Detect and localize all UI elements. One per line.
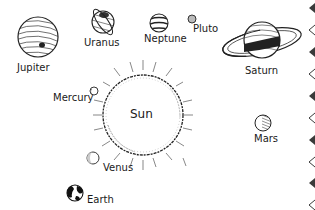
filled-diamond-icon — [309, 3, 315, 13]
uranus-label: Uranus — [84, 38, 119, 48]
outline-chevron-icon — [309, 200, 315, 210]
outline-chevron-icon — [309, 25, 315, 35]
earth-planet — [67, 185, 83, 201]
mercury-label: Mercury — [53, 93, 94, 103]
decorative-border-strip — [309, 3, 315, 210]
filled-diamond-icon — [309, 91, 315, 101]
outline-chevron-icon — [309, 113, 315, 123]
outline-chevron-icon — [309, 69, 315, 79]
pluto-planet — [188, 15, 196, 23]
mars-planet — [255, 115, 272, 131]
venus-planet — [87, 152, 99, 164]
pluto-label: Pluto — [193, 24, 218, 34]
neptune-planet — [150, 14, 168, 32]
neptune-label: Neptune — [144, 34, 187, 44]
earth-label: Earth — [87, 195, 114, 205]
sun-label: Sun — [130, 108, 153, 120]
jupiter-label: Jupiter — [17, 63, 50, 73]
illustration-canvas — [0, 0, 315, 210]
uranus-planet — [90, 7, 115, 37]
jupiter-planet — [15, 15, 62, 58]
filled-diamond-icon — [309, 135, 315, 145]
venus-label: Venus — [103, 163, 133, 173]
filled-diamond-icon — [309, 47, 315, 57]
saturn-planet — [220, 22, 303, 62]
filled-diamond-icon — [309, 178, 315, 188]
outline-chevron-icon — [309, 157, 315, 167]
mars-label: Mars — [254, 134, 278, 144]
saturn-label: Saturn — [245, 66, 278, 76]
solar-system-illustration: Sun Jupiter Uranus Neptune Pluto Saturn … — [0, 0, 315, 210]
